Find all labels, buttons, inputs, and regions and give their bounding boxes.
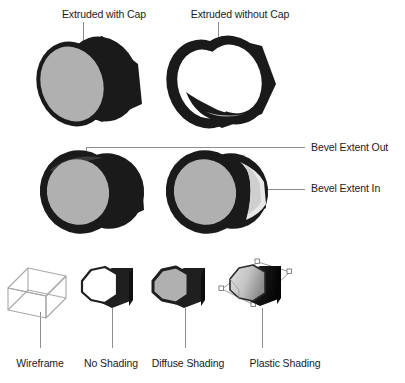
plastic-hex-face — [230, 265, 265, 301]
figure-canvas: Extruded with Cap Extruded without Cap B… — [0, 0, 405, 383]
plastic-handle-left — [219, 286, 224, 291]
label-plastic-shading: Plastic Shading — [250, 357, 321, 369]
shape-plastic-shading — [0, 0, 405, 383]
label-wireframe: Wireframe — [16, 357, 64, 369]
plastic-side-face — [277, 266, 281, 304]
plastic-handle-top — [255, 259, 260, 264]
plastic-handle-right — [287, 269, 292, 274]
label-no-shading: No Shading — [84, 357, 138, 369]
label-diffuse-shading: Diffuse Shading — [152, 357, 224, 369]
